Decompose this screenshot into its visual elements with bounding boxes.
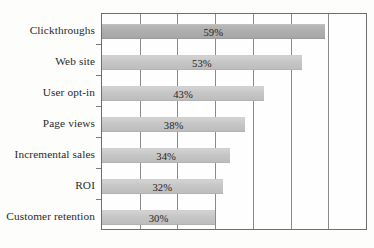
gridline [291,14,292,229]
category-label: Page views [0,117,95,130]
bar-value-label: 30% [149,212,169,223]
bar: 43% [102,86,264,101]
bar-value-label: 59% [203,26,223,37]
bar: 38% [102,117,245,132]
category-axis: ClickthroughsWeb siteUser opt-inPage vie… [0,13,101,230]
category-label: Clickthroughs [0,24,95,37]
category-label: Web site [0,55,95,68]
bar: 32% [102,179,223,194]
category-label: User opt-in [0,86,95,99]
category-label: ROI [0,179,95,192]
bar-chart: ClickthroughsWeb siteUser opt-inPage vie… [0,0,374,248]
bar: 34% [102,148,230,163]
bar-value-label: 32% [152,181,172,192]
bar-value-label: 53% [192,57,212,68]
bar-value-label: 38% [164,119,184,130]
bar: 59% [102,24,325,39]
gridline [253,14,254,229]
plot-area: 59%53%43%38%34%32%30% [101,13,367,230]
bar-value-label: 34% [156,150,176,161]
gridline [328,14,329,229]
category-label: Incremental sales [0,148,95,161]
bar-value-label: 43% [173,88,193,99]
bar: 30% [102,210,215,225]
category-label: Customer retention [0,210,95,223]
bar: 53% [102,55,302,70]
